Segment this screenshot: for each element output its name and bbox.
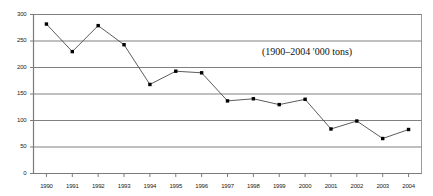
data-point-marker [148,83,151,86]
x-tick-label: 1993 [110,183,138,189]
x-tick-label: 1996 [188,183,216,189]
x-tick-label: 1990 [32,183,60,189]
data-point-marker [303,98,306,101]
line-chart [0,0,433,196]
x-tick-label: 2004 [395,183,423,189]
y-tick-label: 300 [7,11,27,17]
data-point-marker [252,97,255,100]
y-tick-label: 250 [7,37,27,43]
data-point-marker [407,128,410,131]
data-point-marker [96,24,99,27]
data-point-marker [226,99,229,102]
x-tick-label: 1997 [214,183,242,189]
x-tick-label: 2000 [291,183,319,189]
y-tick-label: 200 [7,64,27,70]
x-tick-label: 1998 [239,183,267,189]
data-point-marker [71,50,74,53]
x-tick-label: 1991 [58,183,86,189]
data-point-marker [278,103,281,106]
x-tick-label: 1999 [265,183,293,189]
data-point-marker [200,71,203,74]
x-tick-label: 1994 [136,183,164,189]
data-point-marker [122,43,125,46]
x-tick-label: 2003 [369,183,397,189]
data-point-marker [355,119,358,122]
y-tick-label: 0 [7,170,27,176]
data-point-marker [45,22,48,25]
y-tick-label: 50 [7,143,27,149]
x-tick-label: 1995 [162,183,190,189]
chart-container: 050100150200250300 199019911992199319941… [0,0,433,196]
x-tick-label: 2001 [317,183,345,189]
data-point-marker [329,127,332,130]
y-tick-label: 100 [7,117,27,123]
data-point-marker [174,70,177,73]
y-tick-label: 150 [7,90,27,96]
x-tick-label: 1992 [84,183,112,189]
chart-annotation: (1900–2004 '000 tons) [262,46,352,57]
x-tick-label: 2002 [343,183,371,189]
data-point-marker [381,137,384,140]
